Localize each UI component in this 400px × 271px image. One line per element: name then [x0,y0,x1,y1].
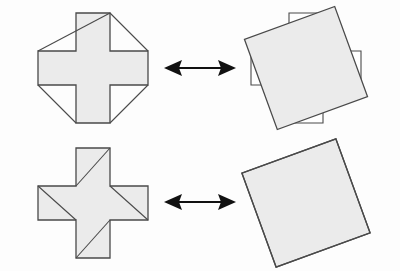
rotated-square [242,139,370,267]
rotated-square-with-cross-cutout-shape [220,135,400,271]
rotated-square [244,6,367,129]
cross-outline [38,148,148,258]
fold-line-bottom-left [38,85,76,123]
cross-outline [38,13,148,123]
rotated-square-group [242,139,370,267]
panel-top-left [0,0,180,136]
figure-root [0,0,400,271]
panel-top-right [220,0,400,136]
fold-line-top-right [110,13,148,51]
rotated-square-over-cross-shape [220,0,400,136]
rotated-square-group [244,6,367,129]
cross-with-corner-folds-shape [0,0,180,136]
panel-bottom-right [220,135,400,271]
cross-with-arm-cuts-shape [0,135,180,271]
panel-bottom-left [0,135,180,271]
fold-line-bottom-right [110,85,148,123]
